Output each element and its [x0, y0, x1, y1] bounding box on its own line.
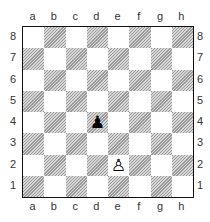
square-h4[interactable]	[172, 112, 193, 133]
square-b2[interactable]	[44, 155, 65, 176]
square-c5[interactable]	[66, 91, 87, 112]
rank-label-3: 3	[194, 132, 206, 153]
file-label-c: c	[65, 10, 86, 22]
rank-label-7: 7	[194, 47, 206, 68]
file-label-b: b	[43, 10, 64, 22]
square-a4[interactable]	[23, 112, 44, 133]
square-g2[interactable]	[151, 155, 172, 176]
file-label-g: g	[150, 200, 171, 212]
file-label-b: b	[43, 200, 64, 212]
square-h5[interactable]	[172, 91, 193, 112]
square-f8[interactable]	[129, 27, 150, 48]
rank-label-5: 5	[7, 90, 19, 111]
square-c6[interactable]	[66, 70, 87, 91]
square-h8[interactable]	[172, 27, 193, 48]
rank-label-3: 3	[7, 132, 19, 153]
square-h2[interactable]	[172, 155, 193, 176]
file-label-d: d	[86, 200, 107, 212]
square-h7[interactable]	[172, 48, 193, 69]
square-f3[interactable]	[129, 133, 150, 154]
square-d2[interactable]	[87, 155, 108, 176]
file-label-g: g	[150, 10, 171, 22]
rank-label-2: 2	[194, 154, 206, 175]
file-label-e: e	[107, 10, 128, 22]
square-e5[interactable]	[108, 91, 129, 112]
square-e2[interactable]: ♙	[108, 155, 129, 176]
square-c8[interactable]	[66, 27, 87, 48]
square-g1[interactable]	[151, 176, 172, 197]
square-a5[interactable]	[23, 91, 44, 112]
square-e3[interactable]	[108, 133, 129, 154]
square-g6[interactable]	[151, 70, 172, 91]
file-label-h: h	[171, 200, 192, 212]
square-e4[interactable]	[108, 112, 129, 133]
file-label-f: f	[128, 200, 149, 212]
rank-label-1: 1	[194, 175, 206, 196]
square-f4[interactable]	[129, 112, 150, 133]
square-e1[interactable]	[108, 176, 129, 197]
square-d8[interactable]	[87, 27, 108, 48]
rank-label-4: 4	[194, 111, 206, 132]
square-f6[interactable]	[129, 70, 150, 91]
white-pawn-icon[interactable]: ♙	[111, 157, 126, 174]
square-a3[interactable]	[23, 133, 44, 154]
rank-label-6: 6	[7, 69, 19, 90]
square-g3[interactable]	[151, 133, 172, 154]
square-b6[interactable]	[44, 70, 65, 91]
file-label-e: e	[107, 200, 128, 212]
square-c1[interactable]	[66, 176, 87, 197]
file-label-h: h	[171, 10, 192, 22]
rank-label-8: 8	[7, 26, 19, 47]
square-h3[interactable]	[172, 133, 193, 154]
rank-label-6: 6	[194, 69, 206, 90]
square-c7[interactable]	[66, 48, 87, 69]
file-label-a: a	[22, 200, 43, 212]
square-h1[interactable]	[172, 176, 193, 197]
square-f5[interactable]	[129, 91, 150, 112]
file-label-a: a	[22, 10, 43, 22]
square-b3[interactable]	[44, 133, 65, 154]
square-a2[interactable]	[23, 155, 44, 176]
square-a8[interactable]	[23, 27, 44, 48]
square-a6[interactable]	[23, 70, 44, 91]
square-g7[interactable]	[151, 48, 172, 69]
file-label-f: f	[128, 10, 149, 22]
square-g5[interactable]	[151, 91, 172, 112]
square-b8[interactable]	[44, 27, 65, 48]
square-f1[interactable]	[129, 176, 150, 197]
rank-label-1: 1	[7, 175, 19, 196]
square-c4[interactable]	[66, 112, 87, 133]
square-a1[interactable]	[23, 176, 44, 197]
rank-label-2: 2	[7, 154, 19, 175]
rank-label-5: 5	[194, 90, 206, 111]
square-d4[interactable]: ♟	[87, 112, 108, 133]
square-d3[interactable]	[87, 133, 108, 154]
square-b7[interactable]	[44, 48, 65, 69]
square-b4[interactable]	[44, 112, 65, 133]
square-h6[interactable]	[172, 70, 193, 91]
square-g8[interactable]	[151, 27, 172, 48]
square-f7[interactable]	[129, 48, 150, 69]
rank-label-8: 8	[194, 26, 206, 47]
file-label-d: d	[86, 10, 107, 22]
rank-label-7: 7	[7, 47, 19, 68]
square-a7[interactable]	[23, 48, 44, 69]
square-d6[interactable]	[87, 70, 108, 91]
chess-board: ♟♙	[22, 26, 194, 198]
square-b5[interactable]	[44, 91, 65, 112]
square-e8[interactable]	[108, 27, 129, 48]
file-label-c: c	[65, 200, 86, 212]
square-c3[interactable]	[66, 133, 87, 154]
square-c2[interactable]	[66, 155, 87, 176]
black-pawn-icon[interactable]: ♟	[90, 114, 105, 131]
square-d7[interactable]	[87, 48, 108, 69]
square-e7[interactable]	[108, 48, 129, 69]
square-e6[interactable]	[108, 70, 129, 91]
square-d5[interactable]	[87, 91, 108, 112]
square-d1[interactable]	[87, 176, 108, 197]
square-g4[interactable]	[151, 112, 172, 133]
square-f2[interactable]	[129, 155, 150, 176]
square-b1[interactable]	[44, 176, 65, 197]
rank-label-4: 4	[7, 111, 19, 132]
